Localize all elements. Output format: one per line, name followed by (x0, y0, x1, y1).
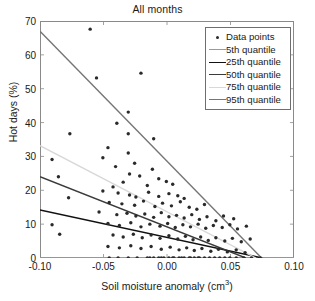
legend-item[interactable]: 5th quantile (209, 44, 286, 57)
legend-item-label: 25th quantile (226, 56, 281, 69)
data-point (127, 151, 130, 154)
data-point (129, 221, 132, 224)
data-point (68, 132, 71, 135)
data-point (118, 224, 121, 227)
data-point (228, 256, 231, 258)
data-point (167, 192, 170, 195)
data-point (259, 256, 262, 258)
data-point (57, 175, 60, 178)
data-point (111, 185, 114, 188)
data-point (116, 191, 119, 194)
data-point (128, 172, 131, 175)
data-point (160, 211, 163, 214)
data-point (128, 193, 131, 196)
legend-item-label: 5th quantile (226, 44, 276, 57)
data-point (127, 132, 130, 135)
data-point (179, 200, 182, 203)
data-point (152, 256, 155, 258)
legend-item[interactable]: 75th quantile (209, 81, 286, 94)
legend-line-icon (209, 56, 226, 69)
data-point (127, 256, 130, 258)
data-point (174, 226, 177, 229)
data-point (153, 205, 156, 208)
data-point (101, 189, 104, 192)
data-point (207, 239, 210, 242)
data-point (135, 256, 138, 258)
data-point (160, 256, 163, 258)
data-point (152, 137, 155, 140)
data-point (152, 216, 155, 219)
data-point (147, 191, 150, 194)
data-point (213, 256, 216, 258)
legend-line-icon (209, 69, 226, 82)
data-point (176, 194, 179, 197)
data-point (168, 245, 171, 248)
data-point (108, 201, 111, 204)
data-point (203, 203, 206, 206)
data-point (177, 248, 180, 251)
x-axis-label: Soil moisture anomaly (cm3) (40, 278, 294, 292)
data-point (116, 256, 119, 258)
data-point (243, 251, 246, 254)
data-point (226, 250, 229, 253)
data-point (129, 244, 132, 247)
data-point (235, 256, 238, 258)
data-point (97, 210, 100, 213)
data-point (203, 256, 206, 258)
y-axis-label-wrap: Hot days (%) (0, 0, 20, 301)
legend-line-icon (209, 44, 226, 57)
data-point (139, 71, 142, 74)
data-point (188, 206, 191, 209)
legend-dot-icon (216, 36, 219, 39)
data-point (189, 225, 192, 228)
data-point (120, 202, 123, 205)
data-point (58, 233, 61, 236)
data-point (115, 122, 118, 125)
legend-line-icon (209, 94, 226, 107)
data-point (50, 158, 53, 161)
data-point (121, 235, 124, 238)
data-point (190, 213, 193, 216)
legend-item[interactable]: 95th quantile (209, 94, 286, 107)
data-point (236, 227, 239, 230)
data-point (196, 222, 199, 225)
data-point (165, 180, 168, 183)
data-point (199, 235, 202, 238)
data-point (214, 236, 217, 239)
data-point (248, 237, 251, 240)
data-point (134, 214, 137, 217)
data-point (222, 214, 225, 217)
data-point (108, 256, 111, 258)
data-point (191, 238, 194, 241)
legend-item-label: 50th quantile (226, 69, 281, 82)
legend-item-label: 75th quantile (226, 81, 281, 94)
data-point (148, 222, 151, 225)
legend-item[interactable]: 50th quantile (209, 69, 286, 82)
data-point (200, 247, 203, 250)
data-point (106, 245, 109, 248)
legend-line-icon (209, 81, 226, 94)
data-point (157, 195, 160, 198)
data-point (158, 237, 161, 240)
data-point (193, 256, 196, 258)
data-point (184, 235, 187, 238)
legend-line-swatch (209, 99, 226, 100)
data-point (167, 256, 170, 258)
data-point (218, 256, 221, 258)
data-point (167, 234, 170, 237)
data-point (67, 196, 70, 199)
data-point (208, 256, 211, 258)
data-point (106, 222, 109, 225)
data-point (158, 224, 161, 227)
data-point (143, 212, 146, 215)
data-point (235, 248, 238, 251)
x-tick-label: -0.05 (74, 261, 134, 272)
data-point (182, 216, 185, 219)
data-point (167, 215, 170, 218)
data-point (133, 203, 136, 206)
quantile-line (40, 177, 246, 258)
data-point (193, 249, 196, 252)
legend-item-label: Data points (226, 31, 275, 44)
legend-item[interactable]: 25th quantile (209, 56, 286, 69)
legend-item[interactable]: Data points (209, 31, 286, 44)
